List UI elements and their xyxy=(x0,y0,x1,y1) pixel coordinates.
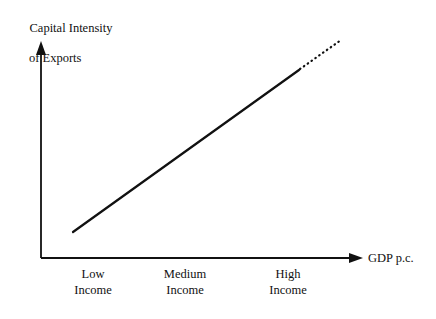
x-tick-label-medium-line2: Income xyxy=(140,282,230,298)
y-axis-title: Capital Intensity of Exports xyxy=(17,6,112,96)
y-axis-title-line1: Capital Intensity xyxy=(30,21,113,35)
trend-line-dotted xyxy=(300,40,341,69)
x-tick-label-high: High Income xyxy=(243,266,333,298)
y-axis-title-line2: of Exports xyxy=(17,51,112,66)
arrow-right-icon xyxy=(349,253,363,263)
x-tick-label-medium: Medium Income xyxy=(140,266,230,298)
x-axis-title: GDP p.c. xyxy=(368,251,414,266)
x-tick-label-medium-line1: Medium xyxy=(140,266,230,282)
x-tick-label-high-line2: Income xyxy=(243,282,333,298)
x-tick-label-low: Low Income xyxy=(48,266,138,298)
x-tick-label-high-line1: High xyxy=(243,266,333,282)
x-tick-label-low-line1: Low xyxy=(48,266,138,282)
chart-figure: Capital Intensity of Exports GDP p.c. Lo… xyxy=(0,0,436,319)
x-tick-label-low-line2: Income xyxy=(48,282,138,298)
